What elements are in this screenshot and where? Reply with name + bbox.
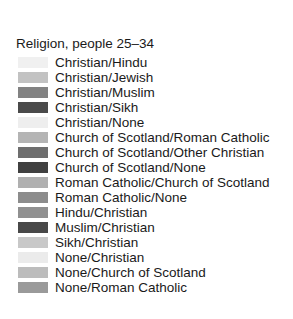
- map-legend: Religion, people 25–34 Christian/HinduCh…: [0, 0, 293, 319]
- legend-color-swatch: [18, 222, 48, 233]
- legend-entry-label: Roman Catholic/None: [55, 190, 187, 205]
- legend-entry-list: Christian/HinduChristian/JewishChristian…: [0, 55, 293, 295]
- legend-entry-label: None/Roman Catholic: [55, 280, 187, 295]
- legend-color-swatch: [18, 147, 48, 158]
- legend-entry-label: Christian/None: [55, 115, 144, 130]
- legend-entry: Church of Scotland/Other Christian: [0, 145, 293, 160]
- legend-color-swatch: [18, 177, 48, 188]
- legend-entry-label: None/Christian: [55, 250, 144, 265]
- legend-entry-label: Hindu/Christian: [55, 205, 147, 220]
- legend-entry: Christian/Hindu: [0, 55, 293, 70]
- legend-color-swatch: [18, 72, 48, 83]
- legend-entry-label: Church of Scotland/None: [55, 160, 206, 175]
- legend-entry: Christian/None: [0, 115, 293, 130]
- legend-entry: Church of Scotland/None: [0, 160, 293, 175]
- legend-color-swatch: [18, 192, 48, 203]
- legend-entry-label: Muslim/Christian: [55, 220, 155, 235]
- legend-entry: Christian/Muslim: [0, 85, 293, 100]
- legend-entry: Roman Catholic/Church of Scotland: [0, 175, 293, 190]
- legend-color-swatch: [18, 162, 48, 173]
- legend-entry: None/Church of Scotland: [0, 265, 293, 280]
- legend-entry: Christian/Jewish: [0, 70, 293, 85]
- legend-entry-label: Church of Scotland/Roman Catholic: [55, 130, 270, 145]
- legend-entry-label: Church of Scotland/Other Christian: [55, 145, 264, 160]
- legend-entry: None/Christian: [0, 250, 293, 265]
- legend-entry: Church of Scotland/Roman Catholic: [0, 130, 293, 145]
- legend-entry: None/Roman Catholic: [0, 280, 293, 295]
- legend-color-swatch: [18, 282, 48, 293]
- legend-entry: Hindu/Christian: [0, 205, 293, 220]
- legend-color-swatch: [18, 102, 48, 113]
- legend-entry-label: Christian/Jewish: [55, 70, 153, 85]
- legend-color-swatch: [18, 117, 48, 128]
- legend-entry-label: Roman Catholic/Church of Scotland: [55, 175, 270, 190]
- legend-color-swatch: [18, 267, 48, 278]
- legend-entry: Sikh/Christian: [0, 235, 293, 250]
- legend-color-swatch: [18, 237, 48, 248]
- legend-entry-label: Sikh/Christian: [55, 235, 138, 250]
- legend-color-swatch: [18, 252, 48, 263]
- legend-entry: Roman Catholic/None: [0, 190, 293, 205]
- legend-color-swatch: [18, 132, 48, 143]
- legend-entry: Muslim/Christian: [0, 220, 293, 235]
- legend-entry-label: Christian/Hindu: [55, 55, 147, 70]
- legend-color-swatch: [18, 87, 48, 98]
- legend-entry-label: None/Church of Scotland: [55, 265, 206, 280]
- legend-entry: Christian/Sikh: [0, 100, 293, 115]
- legend-title: Religion, people 25–34: [16, 36, 154, 51]
- legend-entry-label: Christian/Muslim: [55, 85, 155, 100]
- legend-color-swatch: [18, 57, 48, 68]
- legend-entry-label: Christian/Sikh: [55, 100, 138, 115]
- legend-color-swatch: [18, 207, 48, 218]
